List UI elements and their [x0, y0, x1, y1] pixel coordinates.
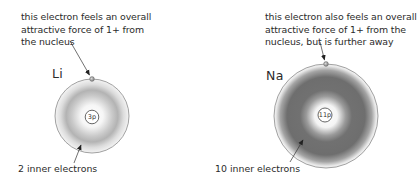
na-outer-electron	[324, 62, 329, 67]
na-atom: 11p	[274, 42, 378, 168]
li-top-caption: this electron feels an overall attractiv…	[21, 11, 151, 49]
na-inner-electrons-label: 10 inner electrons	[215, 163, 300, 174]
li-caption-line: the nucleus	[21, 36, 151, 49]
na-top-caption: this electron also feels an overall attr…	[265, 11, 417, 49]
li-atom: 3p	[55, 41, 129, 163]
li-caption-line: this electron feels an overall	[21, 11, 151, 24]
li-nucleus-label: 3p	[88, 113, 96, 121]
li-outer-electron	[90, 77, 95, 82]
na-caption-line: this electron also feels an overall	[265, 11, 417, 24]
na-element-label: Na	[266, 68, 284, 83]
na-nucleus-label: 11p	[319, 111, 331, 119]
shielding-diagram: 3p 11p this electron feels an overall at…	[0, 0, 418, 184]
li-caption-line: attractive force of 1+ from	[21, 24, 151, 37]
li-element-label: Li	[52, 66, 63, 81]
li-inner-electrons-label: 2 inner electrons	[18, 163, 97, 174]
na-caption-line: attractive force of 1+ from the	[265, 24, 417, 37]
na-caption-line: nucleus, but is further away	[265, 36, 417, 49]
